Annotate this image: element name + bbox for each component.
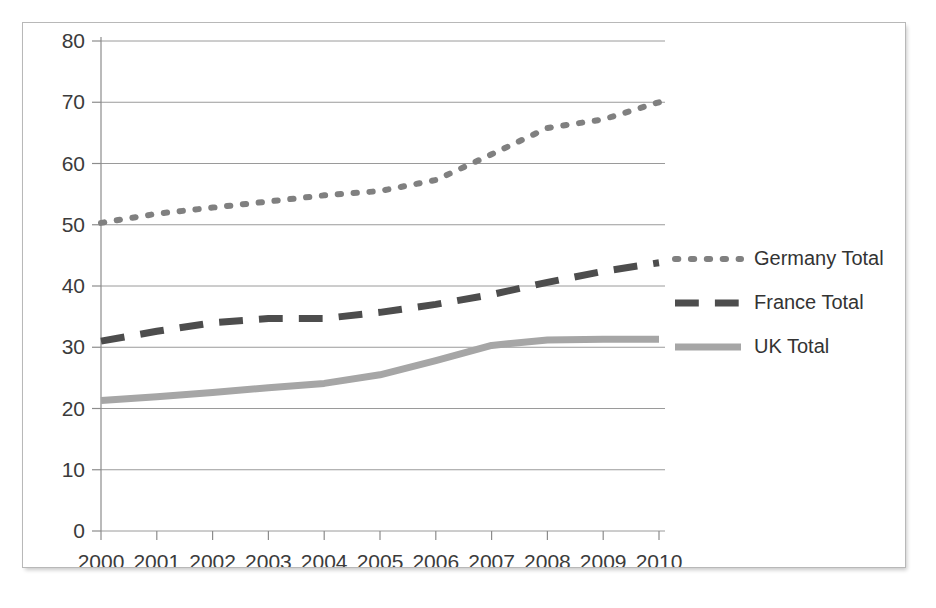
- x-axis-labels-group: 2000200120022003200420052006200720082009…: [78, 550, 683, 567]
- x-axis-tick-label: 2009: [580, 550, 627, 567]
- y-axis-ticks-group: [92, 41, 101, 531]
- y-axis-labels-group: 01020304050607080: [62, 29, 85, 542]
- chart-title: [0, 0, 936, 14]
- x-axis-tick-label: 2003: [245, 550, 292, 567]
- x-axis-tick-label: 2007: [468, 550, 515, 567]
- x-axis-tick-label: 2004: [301, 550, 348, 567]
- series-line-germany-total: [101, 102, 659, 223]
- x-axis-tick-label: 2008: [524, 550, 571, 567]
- y-axis-tick-label: 70: [62, 90, 85, 113]
- y-axis-tick-label: 10: [62, 458, 85, 481]
- y-axis-tick-label: 40: [62, 274, 85, 297]
- y-axis-tick-label: 30: [62, 335, 85, 358]
- x-axis-tick-label: 2005: [357, 550, 404, 567]
- x-axis-tick-label: 2001: [133, 550, 180, 567]
- y-axis-tick-label: 60: [62, 152, 85, 175]
- x-axis-tick-label: 2006: [412, 550, 459, 567]
- legend-label-france-total: France Total: [754, 291, 864, 313]
- line-chart-plot: 01020304050607080 2000200120022003200420…: [23, 23, 905, 567]
- x-axis-ticks-group: [101, 531, 659, 540]
- y-axis-tick-label: 50: [62, 213, 85, 236]
- series-line-france-total: [101, 263, 659, 341]
- x-axis-tick-label: 2002: [189, 550, 236, 567]
- chart-frame: 01020304050607080 2000200120022003200420…: [22, 22, 906, 568]
- gridlines-group: [101, 41, 665, 531]
- legend-label-germany-total: Germany Total: [754, 247, 884, 269]
- y-axis-tick-label: 0: [73, 519, 85, 542]
- legend-label-uk-total: UK Total: [754, 335, 829, 357]
- x-axis-tick-label: 2000: [78, 550, 125, 567]
- x-axis-tick-label: 2010: [636, 550, 683, 567]
- y-axis-tick-label: 20: [62, 397, 85, 420]
- data-series-group: [101, 102, 659, 400]
- y-axis-tick-label: 80: [62, 29, 85, 52]
- series-line-uk-total: [101, 339, 659, 400]
- legend: Germany TotalFrance TotalUK Total: [675, 247, 884, 357]
